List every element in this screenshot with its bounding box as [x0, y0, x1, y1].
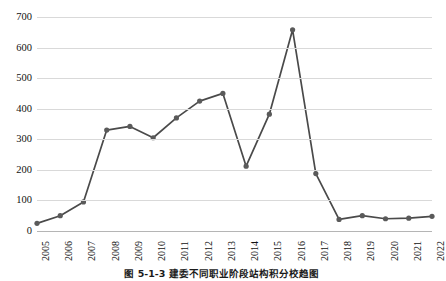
x-axis-tick-label: 2013 — [227, 241, 237, 261]
gridline-300 — [37, 139, 432, 140]
x-axis-tick-label: 2017 — [320, 241, 330, 261]
gridline-400 — [37, 109, 432, 110]
gridline-200 — [37, 170, 432, 171]
data-point-marker — [34, 221, 39, 226]
data-point-marker — [244, 164, 249, 169]
y-axis-tick-label: 500 — [4, 73, 32, 84]
x-axis-tick-label: 2021 — [413, 241, 423, 261]
x-axis-tick-label: 2020 — [390, 241, 400, 261]
line-series-svg — [37, 17, 432, 231]
gridline-700 — [37, 17, 432, 18]
chart-plot-area — [37, 17, 432, 231]
series-line — [37, 30, 432, 224]
x-axis-tick-label: 2018 — [343, 241, 353, 261]
y-axis-tick-label: 200 — [4, 165, 32, 176]
x-axis-tick-label: 2011 — [180, 241, 190, 261]
data-point-marker — [290, 27, 295, 32]
data-point-marker — [104, 128, 109, 133]
x-axis-tick-label: 2005 — [41, 241, 51, 261]
gridline-600 — [37, 48, 432, 49]
data-point-marker — [313, 171, 318, 176]
x-axis-tick-label: 2015 — [273, 241, 283, 261]
data-point-marker — [58, 213, 63, 218]
data-point-marker — [127, 124, 132, 129]
data-point-marker — [429, 214, 434, 219]
y-axis-tick-label: 400 — [4, 104, 32, 115]
y-axis-tick-label: 0 — [4, 226, 32, 237]
x-axis-tick-label: 2007 — [87, 241, 97, 261]
x-axis-tick-label: 2010 — [157, 241, 167, 261]
data-point-marker — [267, 112, 272, 117]
x-axis-tick-label: 2009 — [134, 241, 144, 261]
x-axis-tick-label: 2022 — [436, 241, 446, 261]
data-point-marker — [174, 115, 179, 120]
x-axis-tick-label: 2008 — [111, 241, 121, 261]
gridline-100 — [37, 200, 432, 201]
y-axis-tick-label: 100 — [4, 195, 32, 206]
y-axis-tick-label: 300 — [4, 134, 32, 145]
x-axis-tick-label: 2016 — [297, 241, 307, 261]
figure-caption: 图 5-1-3 建委不同职业阶段站构积分校趋图 — [0, 268, 443, 279]
y-axis-tick-label: 600 — [4, 43, 32, 54]
x-axis-tick-label: 2012 — [204, 241, 214, 261]
x-axis-line — [37, 231, 432, 232]
data-point-marker — [197, 98, 202, 103]
data-point-marker — [406, 216, 411, 221]
x-axis-tick-label: 2006 — [64, 241, 74, 261]
data-point-marker — [336, 217, 341, 222]
data-point-marker — [360, 213, 365, 218]
y-axis-tick-label: 700 — [4, 12, 32, 23]
data-point-marker — [383, 216, 388, 221]
x-axis-tick-label: 2014 — [250, 241, 260, 261]
gridline-500 — [37, 78, 432, 79]
data-point-marker — [220, 91, 225, 96]
x-axis-tick-label: 2019 — [366, 241, 376, 261]
